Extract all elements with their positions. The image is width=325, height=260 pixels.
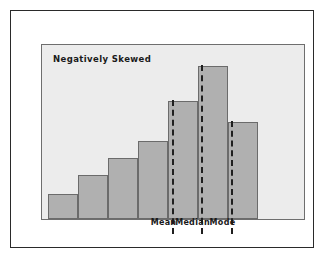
figure-canvas: Negatively Skewed MeanMedianMode (0, 0, 325, 260)
marker-line-mean (172, 100, 174, 234)
plot-panel: Negatively Skewed (41, 44, 305, 220)
histogram-bar (48, 194, 78, 219)
marker-line-median (201, 65, 203, 234)
histogram-bar (108, 158, 138, 219)
marker-label-median: Median (175, 218, 210, 227)
marker-label-mean: Mean (151, 218, 177, 227)
marker-label-mode: Mode (210, 218, 236, 227)
outer-border-frame: Negatively Skewed MeanMedianMode (10, 10, 314, 248)
histogram-bar (138, 141, 168, 219)
histogram-bar (78, 175, 108, 219)
